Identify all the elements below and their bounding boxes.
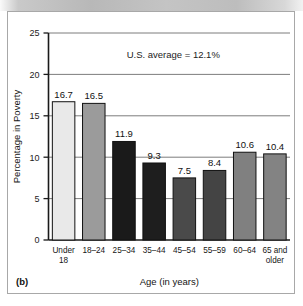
bar-value-label-7: 10.6	[235, 139, 254, 150]
bar-value-label-8: 10.4	[266, 141, 285, 152]
bar-value-label-5: 7.5	[178, 165, 191, 176]
bar-value-label-1: 16.7	[54, 89, 73, 100]
category-label-3: 25–34	[113, 246, 136, 255]
us-average-annotation: U.S. average = 12.1%	[127, 49, 221, 60]
category-label-7: 60–64	[233, 246, 256, 255]
bar-7[interactable]	[233, 152, 256, 240]
y-tick-label-10: 10	[29, 153, 39, 163]
y-tick-label-5: 5	[34, 194, 39, 204]
y-tick-label-0: 0	[34, 235, 39, 245]
x-axis-title: Age (in years)	[140, 276, 199, 287]
category-label-2: 18–24	[82, 246, 105, 255]
y-tick-label-20: 20	[29, 70, 39, 80]
panel-tag: (b)	[16, 276, 28, 287]
y-tick-label-15: 15	[29, 111, 39, 121]
category-label-5: 45–54	[173, 246, 196, 255]
bar-value-label-6: 8.4	[208, 157, 221, 168]
bar-2[interactable]	[83, 103, 106, 240]
category-label-1-line2: 18	[59, 256, 69, 265]
category-label-8: 65 and	[262, 246, 287, 255]
y-tick-label-25: 25	[29, 28, 39, 38]
bar-chart: 051015202516.7Under1816.518–2411.925–349…	[0, 0, 303, 306]
category-label-8-line2: older	[266, 256, 284, 265]
bar-3[interactable]	[113, 141, 136, 240]
bar-value-label-3: 11.9	[115, 128, 133, 139]
bar-1[interactable]	[52, 102, 75, 240]
bar-5[interactable]	[173, 178, 196, 240]
category-label-4: 35–44	[143, 246, 166, 255]
y-axis-title: Percentage in Poverty	[11, 90, 22, 184]
bar-value-label-2: 16.5	[85, 90, 104, 101]
category-label-1: Under	[52, 246, 75, 255]
bar-4[interactable]	[143, 163, 166, 240]
bar-8[interactable]	[264, 154, 287, 240]
bar-value-label-4: 9.3	[148, 150, 161, 161]
bar-6[interactable]	[203, 170, 226, 240]
category-label-6: 55–59	[203, 246, 226, 255]
